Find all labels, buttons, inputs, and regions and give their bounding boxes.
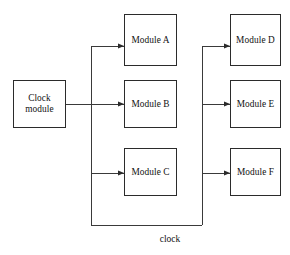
- clock-module-label: Clock module: [25, 93, 54, 115]
- module-a-label: Module A: [131, 35, 169, 46]
- module-b-node: Module B: [124, 80, 177, 128]
- module-c-node: Module C: [124, 148, 177, 196]
- module-f-node: Module F: [230, 148, 281, 196]
- module-b-label: Module B: [131, 99, 169, 110]
- clock-module-node: Clock module: [13, 80, 66, 128]
- module-c-label: Module C: [131, 167, 169, 178]
- module-e-node: Module E: [230, 80, 281, 128]
- module-d-label: Module D: [236, 35, 275, 46]
- clock-bus-caption: clock: [140, 234, 200, 244]
- module-f-label: Module F: [237, 167, 274, 178]
- module-e-label: Module E: [237, 99, 275, 110]
- module-a-node: Module A: [124, 14, 177, 66]
- module-d-node: Module D: [230, 14, 281, 66]
- clock-distribution-diagram: Clock module Module A Module B Module C …: [0, 0, 290, 255]
